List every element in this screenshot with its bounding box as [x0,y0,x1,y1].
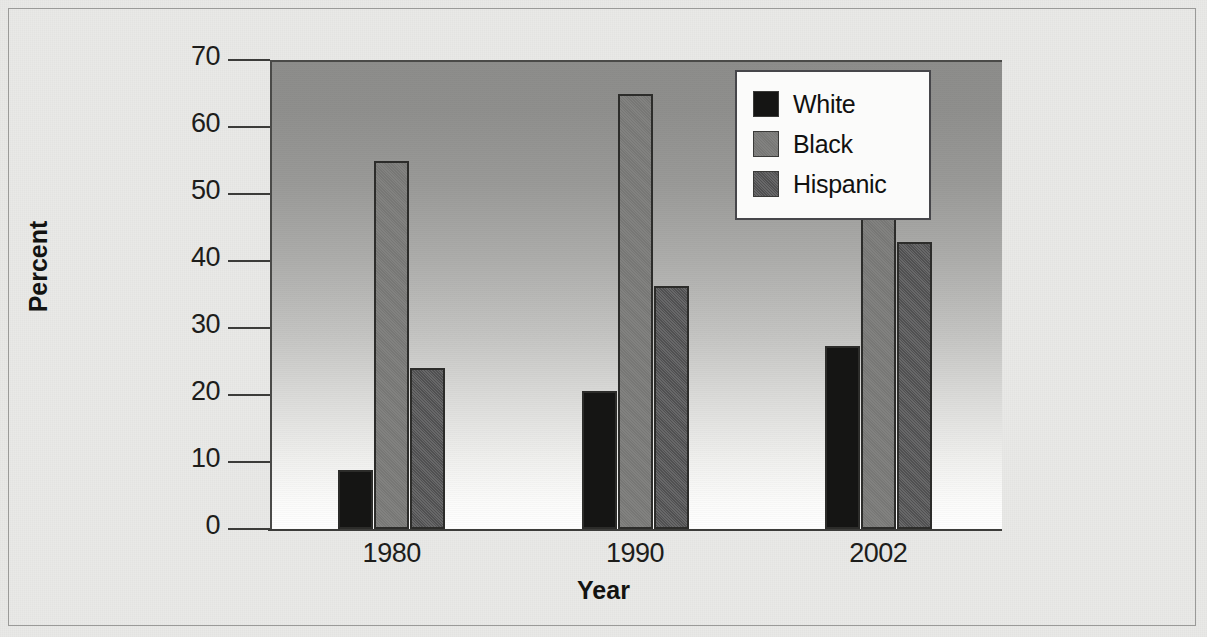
x-axis-title: Year [0,576,1207,605]
x-axis-tick-label: 1990 [555,538,715,569]
y-axis-tick [228,461,270,463]
x-axis-tick-label: 2002 [798,538,958,569]
y-axis-tick-label: 70 [160,41,220,72]
x-axis-tick-label: 1980 [312,538,472,569]
bar-black-1980 [374,161,409,530]
bar-white-1990 [582,391,617,529]
y-axis-tick-label: 30 [160,309,220,340]
bar-white-2002 [825,346,860,529]
legend-item-white: White [753,84,915,124]
legend-item-label: Hispanic [793,170,886,199]
legend-item-black: Black [753,124,915,164]
y-axis-tick [228,260,270,262]
legend-item-label: White [793,90,855,119]
y-axis-tick-label: 0 [160,510,220,541]
y-axis-tick [228,193,270,195]
legend-swatch-black [753,131,779,157]
legend-item-hispanic: Hispanic [753,164,915,204]
legend-swatch-hispanic [753,171,779,197]
bar-hispanic-1990 [654,286,689,529]
y-axis-tick-label: 50 [160,175,220,206]
bar-white-1980 [338,470,373,529]
y-axis-tick-label: 10 [160,443,220,474]
y-axis-tick-label: 20 [160,376,220,407]
y-axis-tick [228,327,270,329]
y-axis-tick [228,59,270,61]
y-axis-title: Percent [24,167,53,367]
legend-swatch-white [753,91,779,117]
legend-item-label: Black [793,130,853,159]
y-axis-tick [228,126,270,128]
y-axis-tick [228,394,270,396]
bar-black-1990 [618,94,653,530]
bar-hispanic-1980 [410,368,445,529]
bar-hispanic-2002 [897,242,932,529]
y-axis-tick-label: 40 [160,242,220,273]
figure-canvas: Percent 010203040506070 198019902002 Yea… [0,0,1207,637]
y-axis-tick-label: 60 [160,108,220,139]
chart-legend: WhiteBlackHispanic [735,70,931,220]
x-axis-line [268,529,1002,531]
y-axis-tick [228,528,270,530]
